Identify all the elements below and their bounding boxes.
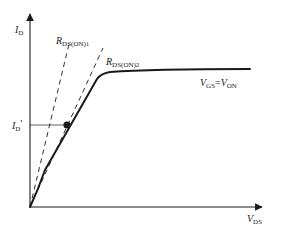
output-characteristic-curve bbox=[30, 69, 250, 207]
rds-on-1-line bbox=[30, 44, 69, 207]
rds-on-1-label: RDS(ON)1 bbox=[55, 35, 90, 48]
vgs-von-label: VGS=VON bbox=[200, 77, 237, 90]
y-axis-label: ID bbox=[14, 24, 23, 37]
mosfet-characteristic-diagram: ID VDS RDS(ON)1 RDS(ON)2 VGS=VON ID' bbox=[0, 0, 291, 236]
operating-point-marker bbox=[63, 121, 70, 128]
rds-on-2-label: RDS(ON)2 bbox=[105, 56, 140, 69]
x-axis-label: VDS bbox=[247, 213, 262, 226]
id-prime-label: ID' bbox=[11, 118, 22, 133]
